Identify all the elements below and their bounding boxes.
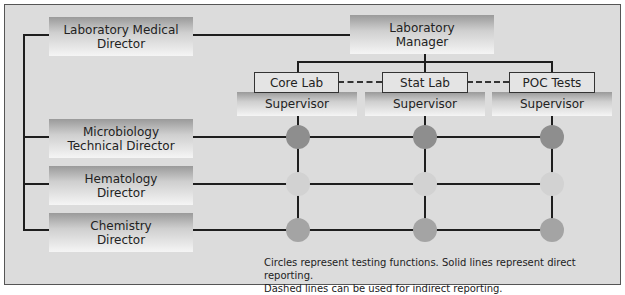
dashed-core-to-stat	[338, 81, 382, 83]
section-core-lab: Core Lab	[254, 72, 339, 93]
diagram-caption: Circles represent testing functions. Sol…	[264, 256, 625, 295]
dashed-stat-to-poc	[467, 81, 509, 83]
supervisor-poc-tests: Supervisor	[492, 92, 612, 116]
testing-function-circle	[413, 218, 437, 242]
director-bracket-vertical	[23, 34, 25, 231]
box-microbiology-director: MicrobiologyTechnical Director	[49, 119, 193, 158]
connector-microbiology	[23, 136, 49, 138]
connector-stat-lab	[424, 61, 426, 72]
testing-function-circle	[540, 172, 564, 196]
testing-function-circle	[540, 218, 564, 242]
supervisor-stat-lab: Supervisor	[365, 92, 485, 116]
testing-function-circle	[286, 125, 310, 149]
box-lab-medical-director: Laboratory MedicalDirector	[49, 17, 193, 56]
connector-lab-medical-director	[23, 34, 49, 36]
connector-core-lab	[297, 61, 299, 72]
testing-function-circle	[413, 172, 437, 196]
row-line-chemistry	[193, 229, 551, 231]
section-stat-lab: Stat Lab	[382, 72, 468, 93]
box-laboratory-manager: LaboratoryManager	[350, 15, 494, 54]
connector-director-to-manager	[193, 34, 350, 36]
testing-function-circle	[413, 125, 437, 149]
connector-chemistry	[23, 229, 49, 231]
row-line-hematology	[193, 183, 551, 185]
box-chemistry-director: ChemistryDirector	[49, 213, 193, 252]
row-line-microbiology	[193, 136, 551, 138]
box-hematology-director: HematologyDirector	[49, 166, 193, 205]
testing-function-circle	[286, 218, 310, 242]
connector-hematology	[23, 183, 49, 185]
section-poc-tests: POC Tests	[509, 72, 595, 93]
supervisor-core-lab: Supervisor	[237, 92, 357, 116]
testing-function-circle	[286, 172, 310, 196]
testing-function-circle	[540, 125, 564, 149]
connector-poc-tests	[551, 61, 553, 72]
